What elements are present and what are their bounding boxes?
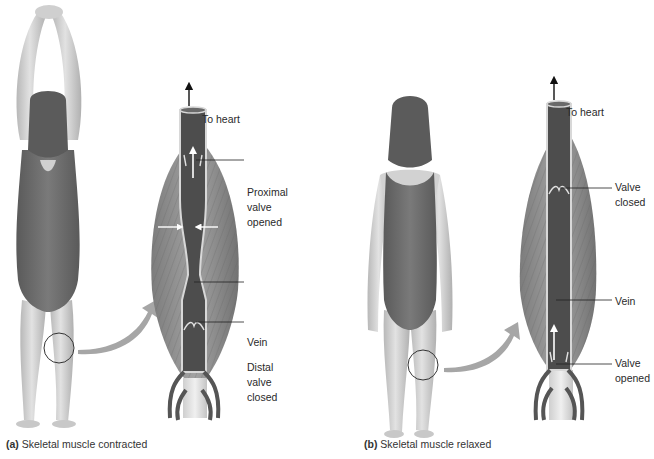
caption-a-text: Skeletal muscle contracted bbox=[22, 438, 147, 450]
muscle-vein-contracted bbox=[151, 86, 244, 420]
label-proximal-valve-opened: Proximal valve opened bbox=[247, 185, 288, 230]
label-vein-b: Vein bbox=[615, 294, 635, 309]
caption-a-letter: (a) bbox=[6, 438, 19, 450]
label-vein-a: Vein bbox=[247, 335, 267, 350]
label-to-heart-a: To heart bbox=[202, 112, 240, 127]
muscle-vein-relaxed bbox=[520, 80, 612, 420]
woman-arms-raised bbox=[16, 5, 81, 428]
skeletal-muscle-pump-figure: To heart Proximal valve opened Vein Dist… bbox=[0, 0, 654, 459]
label-valve-closed: Valve closed bbox=[615, 180, 645, 210]
caption-b-text: Skeletal muscle relaxed bbox=[380, 438, 491, 450]
label-distal-valve-closed: Distal valve closed bbox=[247, 360, 277, 405]
caption-b: (b) Skeletal muscle relaxed bbox=[364, 438, 491, 450]
zoom-arrow-a bbox=[78, 300, 158, 354]
woman-standing bbox=[368, 96, 453, 438]
label-to-heart-b: To heart bbox=[566, 105, 604, 120]
label-valve-opened: Valve opened bbox=[615, 356, 650, 386]
figure-artwork bbox=[0, 0, 654, 459]
caption-b-letter: (b) bbox=[364, 438, 377, 450]
zoom-arrow-b bbox=[444, 322, 520, 372]
caption-a: (a) Skeletal muscle contracted bbox=[6, 438, 147, 450]
